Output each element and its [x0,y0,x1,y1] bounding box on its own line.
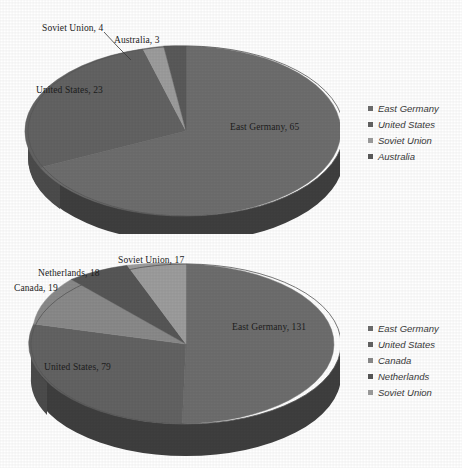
legend-swatch-icon [368,154,373,159]
legend-label: Soviet Union [378,135,432,146]
legend-bottom: East Germany United States Canada Nether… [368,320,439,400]
legend-label: Netherlands [378,371,429,382]
label-australia: Australia, 3 [114,35,160,46]
pie-bottom-stage: Soviet Union, 17 Netherlands, 18 Canada,… [0,234,340,468]
legend-label: United States [378,119,435,130]
pie-top-stage: Soviet Union, 4 Australia, 3 United Stat… [0,0,340,234]
legend-swatch-icon [368,326,373,331]
label-soviet-union: Soviet Union, 17 [118,255,184,266]
legend-label: East Germany [378,323,439,334]
pie-chart-top: Soviet Union, 4 Australia, 3 United Stat… [0,0,462,234]
legend-label: Soviet Union [378,387,432,398]
label-netherlands: Netherlands, 18 [38,268,100,279]
legend-swatch-icon [368,390,373,395]
label-canada: Canada, 19 [14,283,58,294]
legend-swatch-icon [368,374,373,379]
legend-swatch-icon [368,138,373,143]
legend-swatch-icon [368,106,373,111]
legend-label: Australia [378,151,415,162]
legend-label: United States [378,339,435,350]
legend-item-united-states[interactable]: United States [368,116,439,132]
legend-item-soviet-union[interactable]: Soviet Union [368,132,439,148]
legend-item-east-germany[interactable]: East Germany [368,100,439,116]
legend-item-canada[interactable]: Canada [368,352,439,368]
label-east-germany: East Germany, 131 [232,322,306,333]
label-united-states: United States, 23 [36,85,103,96]
legend-item-soviet-union[interactable]: Soviet Union [368,384,439,400]
label-east-germany: East Germany, 65 [230,122,299,133]
pie-top-graphic [0,0,340,234]
legend-item-east-germany[interactable]: East Germany [368,320,439,336]
legend-item-united-states[interactable]: United States [368,336,439,352]
legend-label: Canada [378,355,411,366]
label-soviet-union: Soviet Union, 4 [42,23,103,34]
legend-item-netherlands[interactable]: Netherlands [368,368,439,384]
legend-swatch-icon [368,358,373,363]
legend-swatch-icon [368,342,373,347]
pie-chart-bottom: Soviet Union, 17 Netherlands, 18 Canada,… [0,234,462,468]
legend-item-australia[interactable]: Australia [368,148,439,164]
label-united-states: United States, 79 [44,362,111,373]
legend-top: East Germany United States Soviet Union … [368,100,439,164]
legend-swatch-icon [368,122,373,127]
legend-label: East Germany [378,103,439,114]
